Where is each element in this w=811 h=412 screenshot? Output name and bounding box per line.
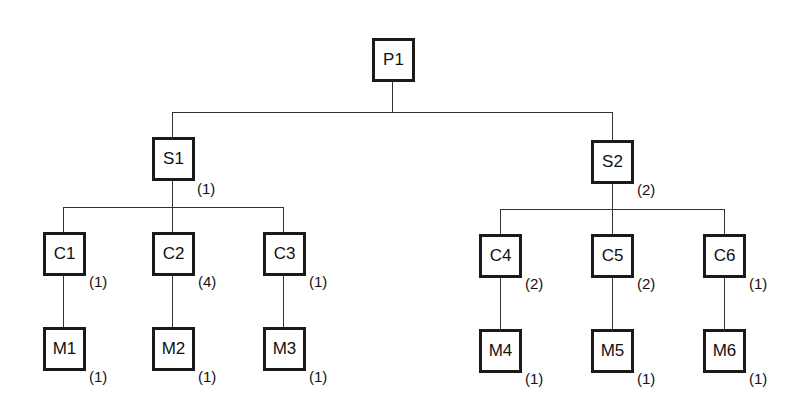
qty-m6: (1) xyxy=(749,370,767,387)
connector-c1-m1 xyxy=(63,276,64,327)
connector-c6-up xyxy=(724,209,725,234)
node-c2: C2 xyxy=(152,232,195,276)
connector-c4-m4 xyxy=(500,278,501,329)
node-m2: M2 xyxy=(152,327,195,371)
qty-m4: (1) xyxy=(525,370,543,387)
node-m6: M6 xyxy=(703,329,746,373)
qty-m2: (1) xyxy=(198,368,216,385)
connector-c3-m3 xyxy=(283,276,284,327)
qty-s1: (1) xyxy=(197,180,215,197)
qty-m3: (1) xyxy=(309,368,327,385)
connector-c6-m6 xyxy=(724,278,725,329)
qty-s2: (2) xyxy=(637,181,655,198)
qty-m1: (1) xyxy=(89,368,107,385)
node-s2: S2 xyxy=(591,140,634,184)
node-c1: C1 xyxy=(43,232,86,276)
connector-s2-up xyxy=(612,112,613,140)
node-p1: P1 xyxy=(372,38,415,82)
qty-c4: (2) xyxy=(525,275,543,292)
connector-s2-down xyxy=(612,184,613,210)
node-c4: C4 xyxy=(479,234,522,278)
connector-c2-m2 xyxy=(172,276,173,327)
node-c3: C3 xyxy=(263,232,306,276)
connector-c2-up xyxy=(172,207,173,232)
connector-c3-up xyxy=(283,207,284,232)
product-structure-tree: P1 S1 (1) S2 (2) C1 (1) C2 (4) C3 (1) C4… xyxy=(0,0,811,412)
qty-c3: (1) xyxy=(309,273,327,290)
connector-s1-up xyxy=(172,112,173,138)
node-s1: S1 xyxy=(152,137,195,181)
connector-c5-m5 xyxy=(612,278,613,329)
node-m4: M4 xyxy=(479,329,522,373)
qty-c2: (4) xyxy=(198,273,216,290)
connector-s1-bar xyxy=(63,207,284,208)
connector-c1-up xyxy=(63,207,64,232)
node-m5: M5 xyxy=(591,329,634,373)
node-m1: M1 xyxy=(43,327,86,371)
connector-s1-down xyxy=(172,181,173,207)
connector-level1-bar xyxy=(172,112,613,113)
node-m3: M3 xyxy=(263,327,306,371)
connector-p1-down xyxy=(392,81,393,112)
qty-m5: (1) xyxy=(637,370,655,387)
connector-c5-up xyxy=(612,209,613,234)
node-c5: C5 xyxy=(591,234,634,278)
qty-c6: (1) xyxy=(749,275,767,292)
connector-c4-up xyxy=(500,209,501,234)
node-c6: C6 xyxy=(703,234,746,278)
qty-c5: (2) xyxy=(637,275,655,292)
qty-c1: (1) xyxy=(89,273,107,290)
